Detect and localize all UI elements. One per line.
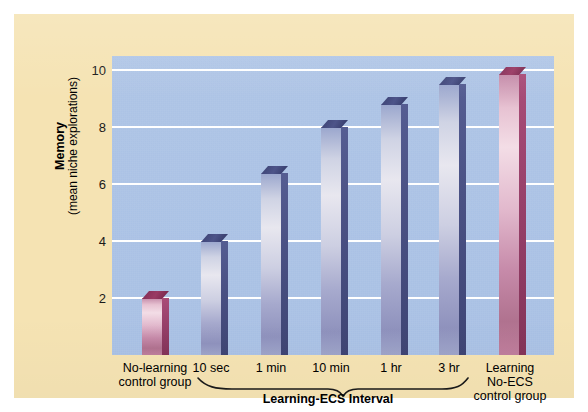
x-label-line: 10 min (312, 361, 350, 375)
y-tick-2: 2 (80, 291, 106, 306)
bar-learning-no-ecs-control[interactable] (499, 67, 519, 355)
bar-side (162, 298, 169, 355)
y-tick-4: 4 (80, 234, 106, 249)
plot-area (112, 56, 554, 355)
bar-1-hr[interactable] (381, 97, 401, 355)
figure: Memory (mean niche explorations) 10 8 6 … (0, 0, 588, 412)
bar-side (401, 104, 408, 355)
x-label-line: 1 min (256, 361, 287, 375)
bar-face (321, 127, 341, 355)
x-label-line: 10 sec (193, 361, 230, 375)
x-label-line: 3 hr (438, 361, 460, 375)
y-tick-6: 6 (80, 177, 106, 192)
bar-no-learning-control[interactable] (142, 291, 162, 355)
bar-side (281, 173, 288, 355)
bar-face (499, 74, 519, 355)
figure-panel: Memory (mean niche explorations) 10 8 6 … (14, 14, 574, 398)
bar-10-sec[interactable] (201, 234, 221, 355)
bar-face (142, 298, 162, 355)
y-axis-ticks: 10 8 6 4 2 (76, 56, 106, 355)
x-label-line: 1 hr (380, 361, 402, 375)
bar-3-hr[interactable] (439, 77, 459, 355)
bar-face (381, 104, 401, 355)
group-bracket-label: Learning-ECS Interval (112, 392, 554, 406)
gridline-10 (112, 69, 554, 71)
bar-face (201, 241, 221, 355)
bar-side (221, 241, 228, 355)
x-label-line: Learning (486, 361, 535, 375)
y-tick-10: 10 (80, 63, 106, 78)
bar-side (519, 74, 526, 355)
y-tick-8: 8 (80, 120, 106, 135)
bar-1-min[interactable] (261, 166, 281, 355)
bar-face (261, 173, 281, 355)
bar-10-min[interactable] (321, 120, 341, 355)
group-bracket-label-text: Learning-ECS Interval (263, 392, 394, 406)
bar-face (439, 84, 459, 355)
bar-side (459, 84, 466, 355)
bar-side (341, 127, 348, 355)
